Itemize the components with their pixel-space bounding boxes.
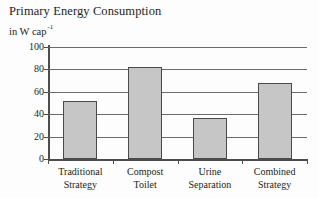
x-axis-tick-mark — [307, 159, 308, 164]
y-axis-tick-mark — [44, 114, 49, 115]
x-axis-category-label: TraditionalStrategy — [48, 165, 113, 191]
x-axis-tick-mark — [178, 159, 179, 164]
x-axis-tick-mark — [48, 159, 49, 164]
y-axis-tick-labels: 100806040200 — [12, 47, 44, 159]
bar — [258, 83, 292, 159]
y-axis-tick-label: 100 — [14, 42, 44, 52]
y-axis-tick-label: 20 — [14, 132, 44, 142]
x-axis-category-label-line1: Compost — [127, 166, 163, 177]
y-axis-tick-mark — [44, 137, 49, 138]
x-axis-tick-mark — [242, 159, 243, 164]
bar — [193, 118, 227, 159]
chart-figure: Primary Energy Consumption in W cap-1 10… — [0, 0, 319, 198]
y-axis-tick-label: 60 — [14, 87, 44, 97]
gridline — [48, 69, 307, 70]
chart-subtitle-exponent: -1 — [48, 23, 54, 31]
x-axis-category-label-line1: Combined — [254, 166, 296, 177]
gridline — [48, 47, 307, 48]
y-axis-tick-label: 40 — [14, 109, 44, 119]
x-axis-category-label-line2: Strategy — [242, 178, 307, 191]
x-axis-category-label: CombinedStrategy — [242, 165, 307, 191]
y-axis-tick-mark — [44, 47, 49, 48]
chart-subtitle: in W cap-1 — [9, 22, 52, 38]
page-title: Primary Energy Consumption — [9, 4, 161, 18]
bar — [128, 67, 162, 159]
x-axis-category-label-line1: Urine — [198, 166, 221, 177]
y-axis-tick-label: 0 — [14, 154, 44, 164]
x-axis-category-label-line1: Traditional — [58, 166, 102, 177]
y-axis-tick-mark — [44, 69, 49, 70]
x-axis-category-label-line2: Strategy — [48, 178, 113, 191]
bar — [63, 101, 97, 159]
x-axis-tick-mark — [113, 159, 114, 164]
y-axis-tick-label: 80 — [14, 64, 44, 74]
y-axis-tick-mark — [44, 92, 49, 93]
plot-area — [48, 47, 307, 159]
x-axis-category-label: CompostToilet — [113, 165, 178, 191]
x-axis-category-label-line2: Separation — [178, 178, 243, 191]
chart-subtitle-unit: in W cap — [9, 26, 47, 37]
x-axis-category-label: UrineSeparation — [178, 165, 243, 191]
x-axis-category-label-line2: Toilet — [113, 178, 178, 191]
